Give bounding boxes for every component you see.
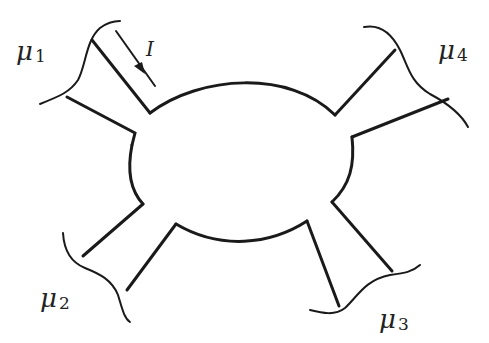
lead-4-upper-wall — [335, 50, 395, 115]
lead-2-upper-wall — [83, 204, 143, 256]
central-region-bottom-edge — [176, 221, 307, 241]
reservoir-2-boundary — [63, 233, 130, 322]
lead-3-left-wall — [307, 221, 339, 306]
central-region-left-edge — [130, 145, 143, 204]
reservoir-2-label: μ2 — [40, 283, 70, 313]
conductor-diagram: I μ1 μ4 μ2 μ3 — [0, 0, 489, 343]
lead-1-upper-wall — [92, 40, 150, 113]
current-label: I — [145, 37, 155, 61]
lead-4-lower-wall — [352, 99, 448, 137]
central-region-right-edge — [332, 137, 353, 202]
reservoir-1-label: μ1 — [16, 36, 46, 66]
lead-2-lower-wall — [127, 224, 176, 290]
lead-3-right-wall — [332, 202, 392, 271]
reservoir-3-label: μ3 — [379, 304, 409, 334]
diagram-canvas: I μ1 μ4 μ2 μ3 — [0, 0, 489, 343]
central-region-top-edge — [150, 83, 335, 115]
lead-1-lower-wall — [67, 97, 135, 145]
reservoir-4-label: μ4 — [438, 35, 468, 65]
